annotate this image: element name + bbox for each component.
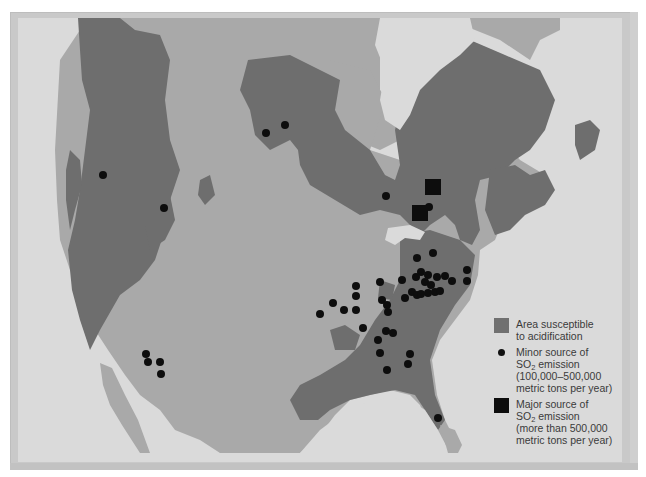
legend-item-susceptible-area: Area susceptible to acidification [493,318,638,342]
minor-source-dot-icon [352,292,360,300]
minor-source-dot-icon [398,276,406,284]
legend-item-minor-source: Minor source of SO2 emission (100,000–50… [493,346,638,394]
legend-minor-line2: SO2 emission [516,358,612,370]
minor-source-dot-icon [424,289,432,297]
legend-major-line4: metric tons per year) [516,434,612,446]
susceptible-atlantic-canada [485,165,555,235]
legend-area-line1: Area susceptible [516,318,594,330]
major-source-square-icon [425,179,441,195]
minor-source-dot-icon [376,349,384,357]
minor-source-dot-icon [316,310,324,318]
legend-minor-line1: Minor source of [516,346,612,358]
minor-source-dot-icon [376,278,384,286]
minor-source-dot-icon [382,192,390,200]
minor-source-dot-icon [448,277,456,285]
minor-source-dot-icon [160,204,168,212]
minor-source-dot-icon [383,366,391,374]
minor-source-dot-icon [382,327,390,335]
map-legend: Area susceptible to acidification Minor … [493,318,638,450]
minor-source-dot-icon [463,266,471,274]
minor-source-dot-icon [413,254,421,262]
minor-source-dot-icon [463,277,471,285]
minor-source-dot-icon [404,360,412,368]
legend-area-line2: to acidification [516,330,594,342]
minor-source-dot-icon [144,358,152,366]
legend-major-line2: SO2 emission [516,410,612,422]
minor-source-dot-icon [389,329,397,337]
susceptible-newfoundland [575,120,600,160]
minor-source-dot-icon [406,350,414,358]
minor-source-dot-icon [374,336,382,344]
minor-source-dot-icon [441,272,449,280]
minor-source-dot-icon [384,308,392,316]
minor-source-dot-icon [436,287,444,295]
minor-source-dot-icon [352,306,360,314]
legend-item-major-source: Major source of SO2 emission (more than … [493,398,638,446]
minor-source-dot-icon [359,324,367,332]
minor-source-dot-icon [424,271,432,279]
minor-source-dot-icon [383,301,391,309]
minor-source-dot-icon [156,358,164,366]
minor-source-dot-icon [340,306,348,314]
legend-major-line1: Major source of [516,398,612,410]
minor-source-dot-icon [498,349,505,356]
minor-source-dot-icon [281,121,289,129]
legend-minor-line4: metric tons per year) [516,382,612,394]
minor-source-dot-icon [352,282,360,290]
minor-source-dot-icon [157,370,165,378]
minor-source-dot-icon [262,129,270,137]
minor-source-dot-icon [434,414,442,422]
minor-source-dot-icon [401,294,409,302]
minor-source-dot-icon [329,299,337,307]
minor-source-dot-icon [417,290,425,298]
major-source-square-icon [412,205,428,221]
minor-source-dot-icon [412,273,420,281]
legend-major-line3: (more than 500,000 [516,422,612,434]
minor-source-dot-icon [429,249,437,257]
minor-source-dot-icon [427,281,435,289]
legend-minor-line3: (100,000–500,000 [516,370,612,382]
major-source-square-icon [494,398,509,413]
susceptible-area-swatch-icon [494,318,509,333]
minor-source-dot-icon [433,273,441,281]
minor-source-dot-icon [142,350,150,358]
minor-source-dot-icon [99,171,107,179]
